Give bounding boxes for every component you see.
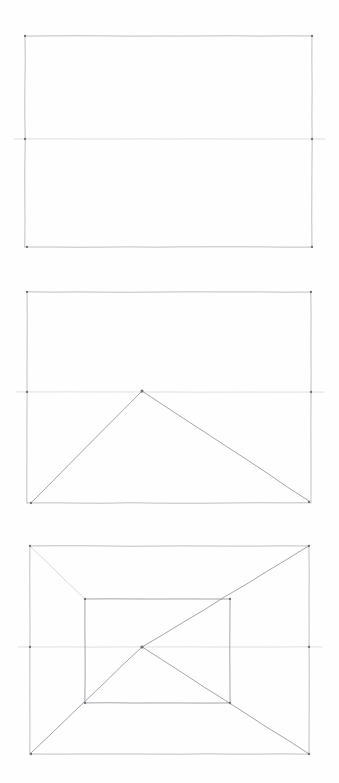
panel-3-corner-nodes bbox=[29, 545, 310, 755]
corner-node bbox=[310, 391, 312, 393]
panel-2-right-ray bbox=[142, 391, 309, 501]
panel-3-diagonal-top-left bbox=[30, 546, 85, 599]
panel-2-stage-2-vanishing-point-rays bbox=[16, 291, 324, 504]
corner-node bbox=[29, 646, 31, 648]
corner-node bbox=[30, 753, 32, 755]
corner-node bbox=[308, 545, 310, 547]
corner-node bbox=[308, 753, 310, 755]
corner-node bbox=[311, 35, 313, 37]
panel-2-outer-rectangle bbox=[27, 292, 311, 503]
panel-3-inner-rectangle bbox=[85, 599, 230, 703]
panel-1-outer-rectangle bbox=[25, 36, 312, 247]
sketch-sheet bbox=[0, 0, 339, 783]
perspective-sketch-canvas bbox=[0, 0, 339, 783]
corner-node bbox=[308, 646, 310, 648]
panel-2-vanishing-point bbox=[141, 390, 144, 393]
corner-node bbox=[311, 138, 313, 140]
corner-node bbox=[308, 501, 310, 503]
panel-3-vanishing-point bbox=[140, 645, 143, 648]
corner-node bbox=[84, 702, 86, 704]
corner-node bbox=[26, 291, 28, 293]
corner-node bbox=[26, 246, 28, 248]
panel-2-corner-nodes bbox=[26, 291, 312, 504]
panel-3-diagonal-top-right bbox=[142, 546, 309, 647]
panel-3-diagonal-bottom-right bbox=[142, 647, 309, 754]
panel-3-stage-3-one-point-room bbox=[18, 545, 322, 755]
panel-3-outer-rectangle bbox=[30, 546, 309, 754]
corner-node bbox=[311, 246, 313, 248]
corner-node bbox=[310, 291, 312, 293]
panel-1-stage-1-picture-plane bbox=[14, 35, 325, 248]
panel-3-diagonal-bottom-left bbox=[30, 647, 142, 754]
corner-node bbox=[229, 598, 231, 600]
corner-node bbox=[84, 598, 86, 600]
corner-node bbox=[229, 702, 231, 704]
corner-node bbox=[24, 138, 26, 140]
panel-1-corner-nodes bbox=[24, 35, 313, 248]
panel-2-left-ray bbox=[31, 391, 142, 503]
corner-node bbox=[30, 502, 32, 504]
panel-3-inner-corner-nodes bbox=[84, 598, 231, 704]
corner-node bbox=[26, 391, 28, 393]
corner-node bbox=[29, 545, 31, 547]
corner-node bbox=[24, 35, 26, 37]
